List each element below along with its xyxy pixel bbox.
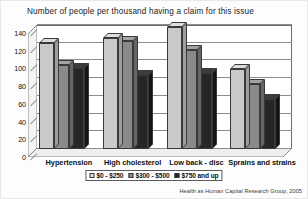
bar-group [37, 25, 101, 149]
y-axis-tick-label: 120 [14, 46, 26, 55]
bar-front-face [39, 43, 54, 149]
bar-side-face [133, 36, 138, 149]
bar-side-face [275, 94, 280, 149]
y-axis-tick-label: 20 [18, 135, 26, 144]
bar-front-face [230, 69, 245, 149]
bar[interactable] [167, 27, 182, 149]
y-axis-tick-label: 40 [18, 117, 26, 126]
y-axis-tick-label: 80 [18, 82, 26, 91]
legend-label: $750 and up [182, 172, 219, 179]
y-axis-tick-label: 0 [22, 153, 26, 162]
chart-legend: $0 - $250$300 - $500$750 and up [85, 170, 222, 181]
bar-side-face [69, 60, 74, 149]
bar-side-face [84, 63, 89, 149]
bar[interactable] [39, 43, 54, 149]
bars-layer [37, 25, 292, 149]
bar[interactable] [230, 69, 245, 149]
y-axis-tick-label: 60 [18, 99, 26, 108]
legend-label: $300 - $500 [135, 172, 169, 179]
bar-group [101, 25, 165, 149]
bar-front-face [103, 38, 118, 149]
legend-swatch-icon [175, 173, 180, 178]
bar-side-face [245, 64, 250, 149]
legend-item[interactable]: $300 - $500 [128, 172, 169, 179]
x-axis-labels: HypertensionHigh cholesterolLow back - d… [28, 158, 292, 170]
bar-group [228, 25, 292, 149]
y-axis: 020406080100120140 [1, 25, 26, 157]
bar-side-face [260, 79, 265, 149]
legend-item[interactable]: $750 and up [175, 172, 219, 179]
bar-side-face [182, 22, 187, 149]
y-axis-tick-label: 140 [14, 29, 26, 38]
legend-swatch-icon [89, 173, 94, 178]
bar-side-face [197, 45, 202, 149]
bar-side-face [118, 33, 123, 149]
legend-swatch-icon [128, 173, 133, 178]
bar-front-face [167, 27, 182, 149]
legend-item[interactable]: $0 - $250 [89, 172, 123, 179]
axis-floor [28, 148, 292, 157]
y-axis-tick-label: 100 [14, 64, 26, 73]
x-axis-category-label: Hypertension [37, 158, 101, 167]
x-axis-category-label: Sprains and strains [228, 158, 292, 167]
chart-title: Number of people per thousand having a c… [27, 7, 254, 16]
bar-group [165, 25, 229, 149]
bar[interactable] [103, 38, 118, 149]
legend-label: $0 - $250 [96, 172, 123, 179]
bar-side-face [212, 68, 217, 149]
x-axis-category-label: Low back - disc [165, 158, 229, 167]
bar-side-face [54, 38, 59, 149]
chart-figure: Number of people per thousand having a c… [0, 0, 308, 199]
bar-side-face [148, 70, 153, 149]
x-axis-category-label: High cholesterol [101, 158, 165, 167]
source-attribution: Health as Human Capital Research Group, … [179, 188, 302, 194]
